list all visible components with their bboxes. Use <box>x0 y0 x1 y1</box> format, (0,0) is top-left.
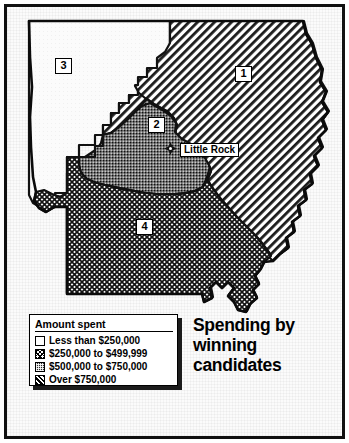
map-title-line-1: Spending by <box>193 315 333 335</box>
city-diamond-icon <box>164 142 177 155</box>
legend-heading: Amount spent <box>35 318 173 332</box>
legend-item: Over $750,000 <box>35 373 173 386</box>
legend-label: $500,000 to $750,000 <box>49 361 147 373</box>
legend-item: $500,000 to $750,000 <box>35 360 173 373</box>
district-label-4: 4 <box>136 219 153 235</box>
map-figure: 3 1 2 4 Little Rock Amount spent Less th… <box>0 0 349 443</box>
city-label-little-rock: Little Rock <box>180 143 239 157</box>
map-title-line-3: candidates <box>193 355 333 375</box>
district-label-1: 1 <box>235 66 252 82</box>
map-title-line-2: winning <box>193 335 333 355</box>
legend-label: $250,000 to $499,999 <box>49 348 147 360</box>
legend: Amount spent Less than $250,000 $250,000… <box>29 314 178 386</box>
district-label-3: 3 <box>55 58 72 74</box>
legend-item: Less than $250,000 <box>35 334 173 347</box>
legend-swatch-500k-to-750k <box>35 362 45 372</box>
legend-item: $250,000 to $499,999 <box>35 347 173 360</box>
legend-swatch-over-750k <box>35 375 45 385</box>
legend-swatch-250k-to-499k <box>35 349 45 359</box>
map-title: Spending by winning candidates <box>193 315 333 375</box>
district-label-2: 2 <box>148 117 165 133</box>
legend-label: Less than $250,000 <box>49 335 140 347</box>
legend-label: Over $750,000 <box>49 374 116 386</box>
legend-swatch-less-than-250k <box>35 336 45 346</box>
